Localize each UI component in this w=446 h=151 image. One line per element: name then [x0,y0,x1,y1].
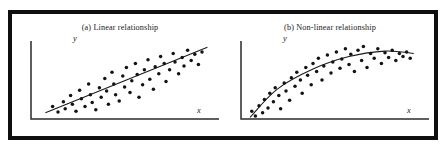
data-point [362,45,366,49]
data-point [62,100,66,104]
data-point [369,52,373,56]
panel-b-plot [225,35,435,135]
data-point [193,53,197,57]
data-point [300,92,304,96]
data-point [152,88,156,92]
data-point [74,109,78,113]
data-point [401,55,405,59]
panel-b-scatter-svg [225,35,435,135]
panel-linear: (a) Linear relationship y x [15,15,225,137]
data-point [56,110,60,114]
data-point [168,68,172,72]
panel-b-caption: (b) Non-linear relationship [225,23,435,32]
data-point [344,47,348,51]
data-point [121,74,125,78]
data-point [103,77,107,81]
data-point [347,63,351,67]
data-point [311,62,315,66]
data-point [349,53,353,57]
data-point [380,62,384,66]
data-point [125,66,128,70]
data-point [295,70,299,74]
data-point [387,56,391,60]
data-point [279,107,283,111]
data-point [376,47,380,51]
data-point [69,94,73,98]
data-point [182,64,186,68]
data-point [134,62,138,66]
panel-b-data-points [250,45,412,118]
data-point [114,93,118,97]
data-point [282,81,286,85]
data-point [83,105,87,109]
data-point [197,63,201,67]
data-point [164,80,168,84]
data-point [405,50,409,54]
data-point [99,95,103,99]
data-point [261,111,265,115]
data-point [360,59,364,63]
data-point [408,56,412,60]
data-point [326,53,330,57]
panel-a-plot [15,35,225,135]
data-point [148,77,152,81]
data-point [159,55,163,59]
data-point [157,72,161,76]
data-point [304,66,308,70]
data-point [63,107,66,111]
data-point [171,52,175,56]
data-point [89,93,93,97]
data-point [372,56,376,60]
data-point [338,67,342,71]
data-point [290,76,294,80]
data-point [146,58,150,62]
data-point [186,49,190,53]
data-point [394,59,398,63]
data-point [356,49,360,53]
data-point [123,85,127,89]
data-point [78,88,82,92]
figure-root: (a) Linear relationship y x (b) [0,0,446,151]
data-point [153,65,157,69]
data-point [266,106,270,110]
data-point [353,70,357,74]
data-point [398,52,402,56]
data-point [80,97,84,101]
data-point [137,95,141,99]
panel-a-caption: (a) Linear relationship [15,23,225,32]
data-point [263,98,267,102]
data-point [173,60,177,64]
panel-a-data-points [51,49,204,114]
data-point [306,74,310,78]
data-point [112,82,116,86]
data-point [162,62,166,66]
data-point [329,71,333,75]
data-point [94,108,98,112]
data-point [141,83,145,87]
data-point [105,89,109,93]
data-point [383,51,387,55]
data-point [177,72,181,76]
panel-a-scatter-svg [15,35,225,135]
data-point [277,94,281,98]
data-point [331,60,335,64]
data-point [272,100,276,104]
data-point [390,49,394,53]
panel-nonlinear: (b) Non-linear relationship y x [225,15,435,137]
data-point [117,99,121,103]
data-point [250,109,254,113]
data-point [135,73,139,77]
data-point [51,105,55,109]
data-point [322,64,326,68]
data-point [365,66,369,70]
data-point [128,91,132,95]
data-point [268,92,272,96]
figure-frame-inner: (a) Linear relationship y x (b) [12,14,434,136]
data-point [309,83,313,87]
data-point [257,104,261,108]
data-point [317,56,321,60]
data-point [293,84,297,88]
data-point [335,50,339,54]
data-point [320,78,324,82]
data-point [200,50,204,54]
